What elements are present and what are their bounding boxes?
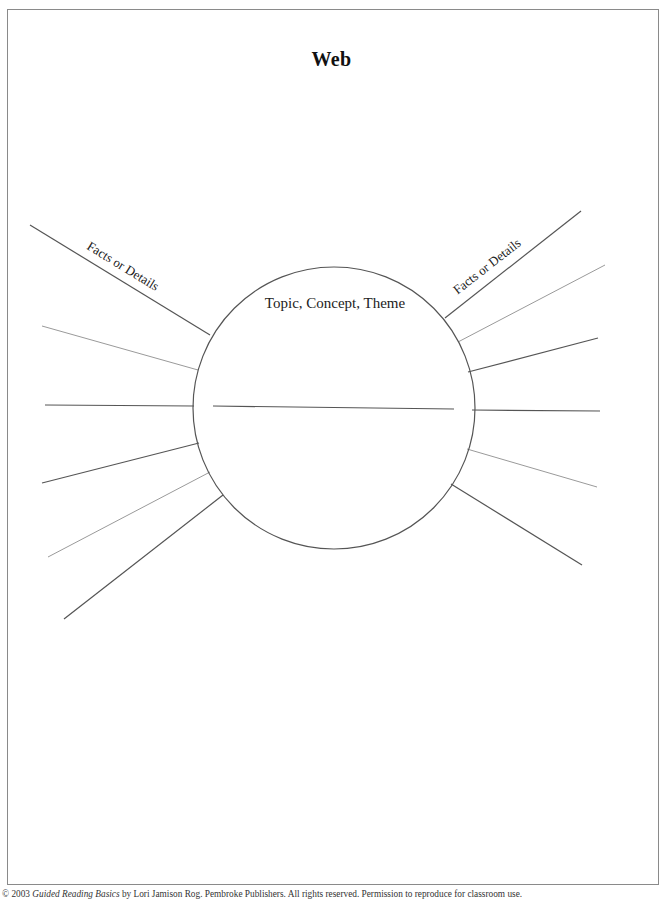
- right-spoke-line-6: [451, 484, 582, 565]
- left-spoke-line-3: [45, 405, 194, 406]
- right-spokes: [445, 211, 605, 565]
- left-spoke-line-5: [48, 472, 210, 557]
- left-spoke-line-1: [30, 225, 210, 335]
- footer-suffix: by Lori Jamison Rog. Pembroke Publishers…: [120, 889, 523, 899]
- right-spoke-line-3: [468, 338, 598, 372]
- left-spoke-line-6: [64, 495, 223, 619]
- right-spoke-line-5: [467, 449, 597, 487]
- right-spoke-line-1: [445, 211, 581, 318]
- center-writing-line: [213, 406, 454, 409]
- right-spoke-line-4: [472, 410, 600, 411]
- left-spoke-line-4: [42, 443, 199, 483]
- web-diagram: [0, 0, 663, 909]
- left-spoke-line-2: [42, 326, 198, 370]
- footer-prefix: © 2003: [2, 889, 32, 899]
- center-topic-label: Topic, Concept, Theme: [220, 295, 450, 312]
- footer-book-title: Guided Reading Basics: [32, 889, 119, 899]
- copyright-footer: © 2003 Guided Reading Basics by Lori Jam…: [2, 889, 522, 899]
